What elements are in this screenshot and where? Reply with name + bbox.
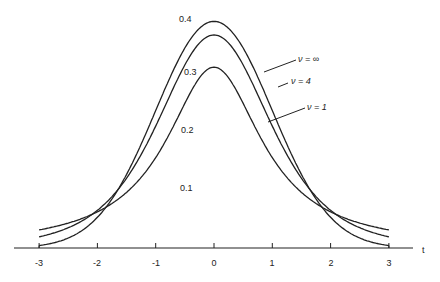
curve-nu-1 — [39, 67, 389, 230]
x-tick-label: 0 — [211, 258, 216, 268]
curve-nu-4 — [39, 35, 389, 237]
x-tick-label: 3 — [386, 258, 391, 268]
y-label-0.4: 0.4 — [179, 14, 192, 24]
t-distribution-plot — [0, 0, 440, 282]
x-tick-label: -2 — [93, 258, 101, 268]
legend-nu-4: ν = 4 — [291, 76, 311, 86]
x-ticks — [39, 243, 389, 248]
legend-nu-inf: ν = ∞ — [298, 54, 319, 64]
x-tick-label: 1 — [269, 258, 274, 268]
x-axis-label: t — [422, 245, 425, 255]
y-label-0.2: 0.2 — [181, 125, 194, 135]
x-tick-label: -1 — [152, 258, 160, 268]
x-tick-label: -3 — [35, 258, 43, 268]
curve-nu-inf — [39, 21, 389, 245]
x-tick-label: 2 — [328, 258, 333, 268]
legend-nu-1: ν = 1 — [307, 102, 327, 112]
y-label-0.1: 0.1 — [180, 183, 193, 193]
curves — [39, 21, 389, 248]
leader-inf — [264, 60, 296, 72]
leader-4 — [278, 83, 288, 87]
y-label-0.3: 0.3 — [184, 67, 197, 77]
